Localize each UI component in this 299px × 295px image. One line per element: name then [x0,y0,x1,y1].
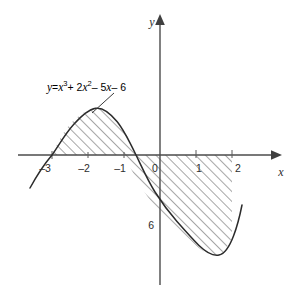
x-tick-label-1: 1 [196,162,202,174]
equation-plus-two: + 2 [68,81,83,93]
equation-annotation: y=x3+ 2x2– 5x– 6 [47,79,126,93]
y-axis [155,14,165,285]
equation-minus-six: – 6 [111,81,126,93]
shaded-region-lower [118,150,240,262]
x-axis-label: x [277,165,284,179]
equation-minus-five: – 5 [92,81,107,93]
y-tick-labels: 6 [148,219,154,231]
y-intercept-label-6: 6 [148,219,154,231]
x-axis-arrow-icon [271,150,282,160]
x-tick-label-2: 2 [235,162,241,174]
y-axis-label: y [148,15,155,29]
x-tick-label-0: 0 [152,162,158,174]
x-tick-label-neg2: –2 [78,162,90,174]
graph-figure: –3 –2 –1 0 1 2 6 x y y=x3+ 2x2– 5x– 6 [0,0,299,295]
y-axis-arrow-icon [155,14,165,25]
x-tick-label-neg1: –1 [114,162,126,174]
x-tick-label-neg3: –3 [39,162,51,174]
cubic-graph-plot: –3 –2 –1 0 1 2 6 x y [0,0,299,295]
